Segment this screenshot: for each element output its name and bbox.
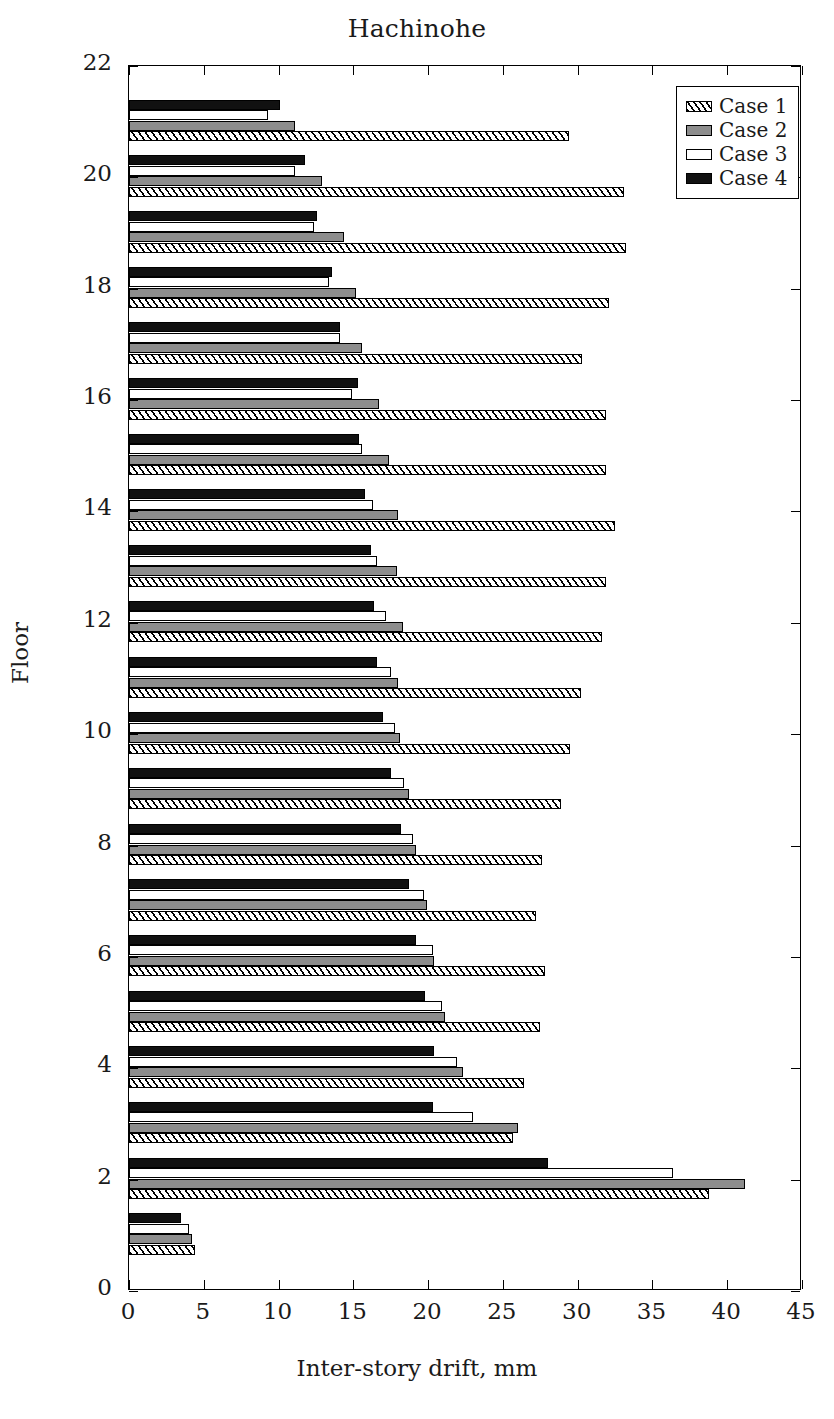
bar-case4-floor-1: [129, 1213, 181, 1223]
floor-group-4: [129, 1046, 800, 1090]
bar-case4-floor-3: [129, 1102, 433, 1112]
x-tick-label-25: 25: [472, 1298, 532, 1324]
y-tick-10: [791, 734, 800, 735]
x-tick-45: [802, 66, 803, 75]
plot-area: [128, 65, 801, 1290]
x-tick-40: [727, 1280, 728, 1289]
x-tick-40: [727, 66, 728, 75]
bar-case4-floor-9: [129, 768, 391, 778]
bar-case1-floor-10: [129, 744, 570, 754]
y-tick-4: [129, 1068, 138, 1069]
y-tick-14: [791, 511, 800, 512]
y-tick-18: [129, 289, 138, 290]
floor-group-17: [129, 322, 800, 366]
x-tick-0: [129, 66, 130, 75]
x-tick-label-45: 45: [771, 1298, 831, 1324]
floor-group-3: [129, 1102, 800, 1146]
bar-case1-floor-9: [129, 799, 561, 809]
y-tick-label-16: 16: [0, 383, 112, 409]
y-tick-label-8: 8: [0, 829, 112, 855]
bar-case2-floor-14: [129, 510, 398, 520]
y-tick-18: [791, 289, 800, 290]
bar-case3-floor-7: [129, 890, 424, 900]
bar-case1-floor-15: [129, 465, 606, 475]
x-tick-25: [503, 1280, 504, 1289]
bar-case2-floor-8: [129, 845, 416, 855]
x-tick-30: [578, 1280, 579, 1289]
y-tick-0: [129, 1291, 138, 1292]
bar-case3-floor-11: [129, 667, 391, 677]
bar-case3-floor-14: [129, 500, 373, 510]
bar-case3-floor-21: [129, 110, 268, 120]
y-tick-0: [791, 1291, 800, 1292]
floor-group-19: [129, 211, 800, 255]
bar-case3-floor-16: [129, 389, 352, 399]
bar-case2-floor-6: [129, 956, 434, 966]
bar-case1-floor-4: [129, 1078, 524, 1088]
bar-case2-floor-10: [129, 733, 400, 743]
floor-group-7: [129, 879, 800, 923]
y-tick-8: [129, 846, 138, 847]
bar-case1-floor-11: [129, 688, 581, 698]
legend-swatch-case-1-icon: [686, 101, 712, 112]
y-tick-label-14: 14: [0, 494, 112, 520]
chart-figure: Hachinohe 051015202530354045 02468101214…: [0, 0, 834, 1419]
y-tick-label-20: 20: [0, 160, 112, 186]
bar-case3-floor-3: [129, 1112, 473, 1122]
legend-label-case-2: Case 2: [719, 118, 787, 142]
bar-case1-floor-2: [129, 1189, 709, 1199]
bar-case4-floor-19: [129, 211, 317, 221]
y-tick-22: [129, 66, 138, 67]
x-tick-label-35: 35: [621, 1298, 681, 1324]
bar-case3-floor-19: [129, 222, 314, 232]
bar-case2-floor-5: [129, 1012, 445, 1022]
bar-case1-floor-12: [129, 632, 602, 642]
bars-container: [129, 66, 800, 1289]
bar-case4-floor-12: [129, 601, 374, 611]
y-tick-6: [129, 957, 138, 958]
floor-group-1: [129, 1213, 800, 1257]
floor-group-16: [129, 378, 800, 422]
bar-case2-floor-7: [129, 900, 427, 910]
x-tick-15: [353, 1280, 354, 1289]
bar-case2-floor-2: [129, 1179, 745, 1189]
chart-title: Hachinohe: [0, 14, 834, 43]
bar-case2-floor-12: [129, 622, 403, 632]
bar-case1-floor-19: [129, 243, 626, 253]
bar-case1-floor-6: [129, 966, 545, 976]
bar-case4-floor-2: [129, 1158, 548, 1168]
bar-case1-floor-1: [129, 1245, 195, 1255]
bar-case2-floor-19: [129, 232, 344, 242]
legend-swatch-case-4-icon: [686, 173, 712, 184]
x-tick-label-5: 5: [173, 1298, 233, 1324]
bar-case3-floor-9: [129, 778, 404, 788]
bar-case1-floor-18: [129, 298, 609, 308]
x-tick-label-10: 10: [248, 1298, 308, 1324]
bar-case2-floor-21: [129, 121, 295, 131]
x-tick-0: [129, 1280, 130, 1289]
y-tick-12: [129, 623, 138, 624]
y-tick-14: [129, 511, 138, 512]
legend-label-case-4: Case 4: [719, 166, 787, 190]
bar-case4-floor-16: [129, 378, 358, 388]
x-tick-5: [204, 1280, 205, 1289]
bar-case1-floor-14: [129, 521, 615, 531]
bar-case4-floor-15: [129, 434, 359, 444]
y-tick-12: [791, 623, 800, 624]
bar-case3-floor-10: [129, 723, 395, 733]
bar-case4-floor-4: [129, 1046, 434, 1056]
bar-case1-floor-3: [129, 1133, 513, 1143]
x-tick-20: [428, 66, 429, 75]
x-tick-45: [802, 1280, 803, 1289]
x-tick-label-0: 0: [98, 1298, 158, 1324]
bar-case2-floor-20: [129, 176, 322, 186]
bar-case2-floor-18: [129, 288, 356, 298]
bar-case4-floor-8: [129, 824, 401, 834]
y-tick-8: [791, 846, 800, 847]
bar-case1-floor-13: [129, 577, 606, 587]
floor-group-14: [129, 489, 800, 533]
bar-case1-floor-7: [129, 911, 536, 921]
bar-case3-floor-18: [129, 277, 329, 287]
y-tick-4: [791, 1068, 800, 1069]
bar-case2-floor-13: [129, 566, 397, 576]
